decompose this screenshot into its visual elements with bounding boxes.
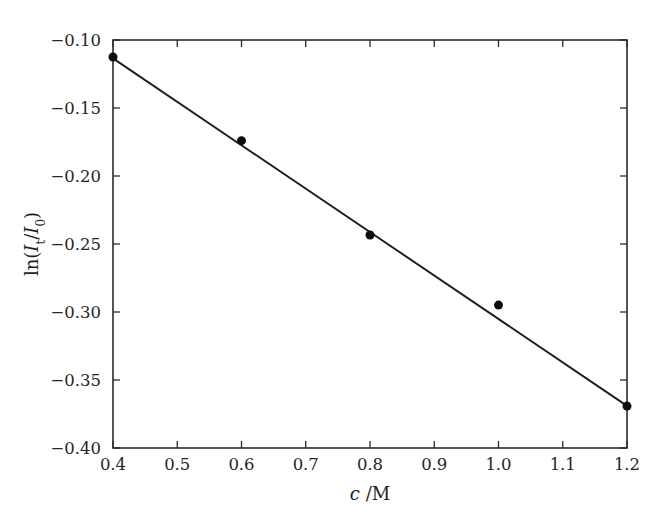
y-tick-label: −0.40	[50, 439, 101, 458]
plot-frame	[113, 40, 627, 448]
x-tick-label: 1.1	[550, 455, 576, 474]
y-tick-label: −0.30	[50, 303, 101, 322]
data-point	[109, 53, 118, 62]
y-axis-ticks	[113, 40, 627, 448]
x-axis-ticks	[113, 40, 627, 448]
data-point	[237, 136, 246, 145]
x-tick-label: 0.8	[357, 455, 383, 474]
y-tick-label: −0.25	[50, 235, 101, 254]
y-tick-label: −0.20	[50, 167, 101, 186]
axes-frame	[113, 40, 627, 448]
data-point	[623, 402, 632, 411]
x-axis-title: c /M	[350, 483, 390, 504]
y-axis-title: ln(It/I0)	[21, 212, 48, 276]
y-tick-label: −0.35	[50, 371, 101, 390]
x-tick-label: 0.6	[228, 455, 254, 474]
x-tick-label: 0.7	[293, 455, 319, 474]
x-tick-label: 1.0	[485, 455, 511, 474]
data-point	[366, 231, 375, 240]
x-tick-label: 0.9	[421, 455, 447, 474]
x-tick-label: 0.4	[100, 455, 126, 474]
x-tick-label: 0.5	[164, 455, 190, 474]
y-axis-tick-labels: −0.10−0.15−0.20−0.25−0.30−0.35−0.40	[50, 31, 101, 458]
x-tick-label: 1.2	[614, 455, 640, 474]
data-point	[494, 301, 503, 310]
scatter-plot: 0.40.50.60.70.80.91.01.11.2 −0.10−0.15−0…	[0, 0, 664, 526]
x-axis-tick-labels: 0.40.50.60.70.80.91.01.11.2	[100, 455, 640, 474]
chart-figure: 0.40.50.60.70.80.91.01.11.2 −0.10−0.15−0…	[0, 0, 664, 526]
y-tick-label: −0.15	[50, 99, 101, 118]
y-tick-label: −0.10	[50, 31, 101, 50]
